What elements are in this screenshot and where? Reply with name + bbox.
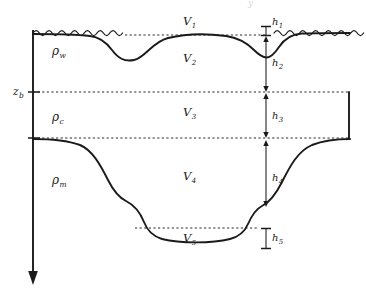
v5-subscript: 5 [192,239,197,247]
zb-label: zb [12,85,24,100]
h3-measure [263,93,268,138]
h4-measure [263,140,268,207]
rho-w-subscript: w [60,51,67,60]
rho-m-label: ρm [51,173,67,189]
h5-label: h5 [272,232,284,246]
depth-axis [28,30,38,285]
zb-symbol: z [12,85,19,97]
h1-subscript: 1 [279,22,283,30]
rho-c-subscript: c [60,117,65,126]
h1-measure [261,27,271,36]
rho-m-symbol: ρ [51,173,59,187]
h3-label: h3 [272,110,284,124]
v1-subscript: 1 [192,22,196,30]
v5-label: V5 [183,231,197,247]
rho-m-subscript: m [60,180,67,189]
h1-symbol: h [272,16,278,27]
h5-symbol: h [272,232,278,243]
v1-label: V1 [183,14,196,30]
h2-measure [263,36,268,92]
v2-label: V2 [183,51,197,67]
v4-label: V4 [183,169,196,185]
v3-subscript: 3 [192,113,197,121]
v3-label: V3 [183,105,197,121]
h1-label: h1 [272,16,283,30]
rho-c-symbol: ρ [51,110,59,124]
h3-subscript: 3 [279,116,284,124]
figure-root: y [0,0,366,295]
h3-symbol: h [272,110,278,121]
h2-label: h2 [272,57,284,71]
rho-c-label: ρc [51,110,65,126]
h4-symbol: h [272,172,278,183]
v4-subscript: 4 [191,177,196,185]
h2-subscript: 2 [278,63,284,71]
h5-subscript: 5 [279,238,284,246]
h2-symbol: h [272,57,278,68]
h4-label: h4 [272,172,283,186]
h5-measure [261,229,271,249]
zb-subscript: b [19,91,24,100]
rho-w-label: ρw [51,44,67,60]
h4-subscript: 4 [278,178,283,186]
isostasy-diagram: zb ρw ρc ρm V1 V2 V3 V4 V5 h1 h2 h3 h4 h… [0,0,366,295]
caption-fragment: y [248,0,253,8]
topography-curve [33,33,350,61]
moho-curve [33,139,350,242]
v2-subscript: 2 [191,59,197,67]
rho-w-symbol: ρ [51,44,59,58]
